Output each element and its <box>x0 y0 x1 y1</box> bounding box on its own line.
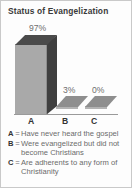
chart-plot-area: 97% 3% 0% <box>1 21 132 115</box>
bar-b <box>56 96 88 110</box>
legend-description-a: Have never heard the gospel <box>21 129 130 139</box>
bar-c <box>85 96 117 110</box>
chart-baseline <box>14 114 118 115</box>
bar-c-top-face <box>85 96 117 107</box>
bar-value-label-b: 3% <box>63 85 75 95</box>
category-axis: A B C <box>1 116 132 128</box>
legend-description-b: Were evangelized but did not become Chri… <box>21 139 130 158</box>
legend-item: B = Were evangelized but did not become … <box>8 139 130 158</box>
bar-b-top-face <box>56 96 88 107</box>
chart-title: Status of Evangelization <box>8 6 108 17</box>
legend-separator: = <box>14 158 21 168</box>
bar-value-label-c: 0% <box>92 85 104 95</box>
chart-legend: A = Have never heard the gospel B = Were… <box>8 129 130 177</box>
evangelization-chart-card: Status of Evangelization 97% 3% 0% A B C… <box>0 0 132 188</box>
bar-a <box>15 35 57 115</box>
axis-label-c: C <box>91 116 97 127</box>
bar-value-label-a: 97% <box>29 23 46 33</box>
axis-label-a: A <box>28 116 34 127</box>
legend-item: C = Are adherents to any form of Christi… <box>8 158 130 177</box>
legend-separator: = <box>14 139 21 149</box>
axis-label-b: B <box>62 116 68 127</box>
legend-description-c: Are adherents to any form of Christianit… <box>21 158 130 177</box>
bar-a-front-face <box>15 44 47 115</box>
legend-item: A = Have never heard the gospel <box>8 129 130 139</box>
legend-separator: = <box>14 129 21 139</box>
